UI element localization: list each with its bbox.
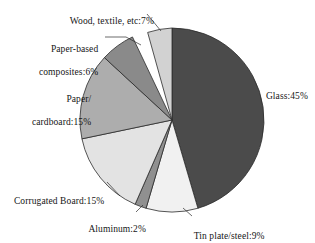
- pie-label-tin-plate-steel: Tin plate/steel:9%: [184, 219, 265, 243]
- pie-label-composites-line1: Paper-based: [51, 44, 98, 54]
- pie-label-tinplate-text: Tin plate/steel:9%: [194, 231, 265, 241]
- pie-label-glass-text: Glass:45%: [266, 91, 308, 101]
- pie-label-corrugated-text: Corrugated Board:15%: [14, 196, 104, 206]
- pie-label-aluminum: Aluminum:2%: [79, 212, 146, 243]
- pie-label-paper-line1: Paper/: [66, 94, 91, 104]
- pie-label-paper-line2: cardboard:15%: [32, 117, 91, 127]
- pie-label-aluminum-text: Aluminum:2%: [88, 224, 146, 234]
- pie-label-composites-line2: composites:6%: [39, 67, 98, 77]
- pie-label-wood-textile-text: Wood, textile, etc:7%: [70, 16, 154, 26]
- pie-label-paper-cardboard: Paper/ cardboard:15%: [22, 82, 91, 140]
- pie-label-paper-based-composites: Paper-based composites:6%: [29, 32, 98, 90]
- pie-label-glass: Glass:45%: [256, 79, 308, 114]
- pie-chart: Wood, textile, etc:7% Paper-based compos…: [0, 0, 315, 243]
